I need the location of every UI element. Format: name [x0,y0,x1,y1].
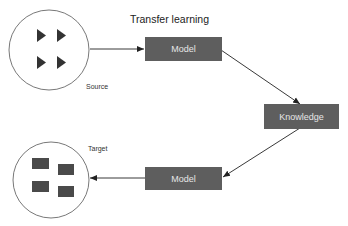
knowledge-box: Knowledge [264,104,339,129]
target-label: Target [88,145,107,152]
model-box-bottom: Model [145,167,222,190]
source-node [9,10,89,90]
edge-knowledge-to-model [223,128,300,177]
model-bottom-label: Model [171,174,196,184]
source-label: Source [86,83,108,90]
target-node [13,142,89,218]
knowledge-label: Knowledge [279,112,324,122]
edge-model-to-knowledge [221,50,300,104]
diagram-title: Transfer learning [130,13,209,25]
model-box-top: Model [145,37,222,61]
model-top-label: Model [171,44,196,54]
